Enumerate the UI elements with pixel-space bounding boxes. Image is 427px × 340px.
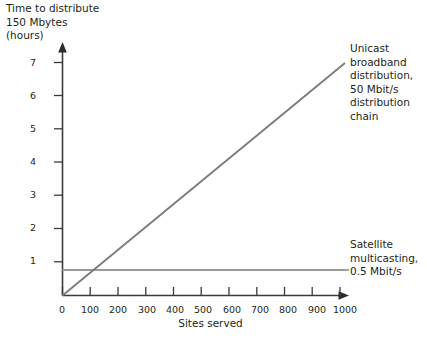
y-tick-marks xyxy=(54,63,63,262)
y-axis xyxy=(58,42,67,296)
x-tick-marks xyxy=(63,287,341,296)
arrow-up-icon xyxy=(58,42,67,53)
plot-area xyxy=(0,0,427,340)
x-axis xyxy=(63,291,350,300)
series-line-unicast xyxy=(63,63,346,296)
chart-figure: Time to distribute 150 Mbytes (hours) 7 … xyxy=(0,0,427,340)
